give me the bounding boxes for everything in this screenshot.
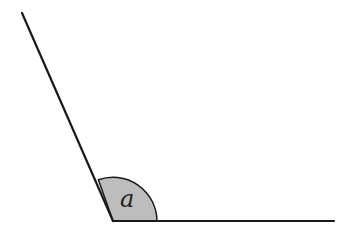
ray-left: [22, 13, 113, 221]
angle-label: a: [120, 185, 134, 213]
angle-diagram: a: [0, 0, 363, 236]
